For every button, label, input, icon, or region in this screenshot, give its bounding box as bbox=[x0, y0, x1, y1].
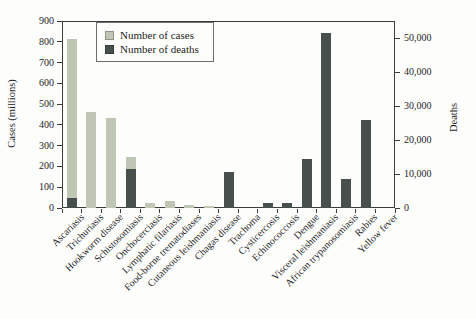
bar-cases-trichuriasis bbox=[86, 112, 96, 208]
bar-deaths-cysticercosis bbox=[263, 203, 273, 208]
x-axis-tick bbox=[218, 209, 219, 213]
bar-deaths-rabies bbox=[361, 120, 371, 208]
left-axis-tick-label: 0 bbox=[16, 203, 54, 213]
x-axis-tick bbox=[62, 209, 63, 213]
legend-item-cases: Number of cases bbox=[105, 29, 199, 41]
right-axis-tick-label: 10,000 bbox=[404, 169, 432, 179]
left-axis-tick bbox=[57, 83, 62, 84]
x-axis-tick bbox=[101, 209, 102, 213]
right-axis-tick-label: 30,000 bbox=[404, 101, 432, 111]
right-axis-tick bbox=[395, 208, 400, 209]
bar-deaths-african-trypanosomiasis bbox=[341, 179, 351, 208]
left-axis-tick bbox=[57, 187, 62, 188]
x-axis-tick bbox=[81, 209, 82, 213]
x-axis-tick bbox=[316, 209, 317, 213]
x-axis-tick bbox=[277, 209, 278, 213]
left-axis-tick-label: 400 bbox=[16, 120, 54, 130]
bar-deaths-ascariasis bbox=[67, 198, 77, 208]
bar-deaths-echinococcosis bbox=[282, 203, 292, 208]
left-axis-tick bbox=[57, 41, 62, 42]
x-axis-tick bbox=[257, 209, 258, 213]
left-axis-tick bbox=[57, 21, 62, 22]
bar-cases-onchocerciasis bbox=[145, 203, 155, 208]
x-axis-tick bbox=[179, 209, 180, 213]
bar-chart-ntd-cases-deaths: 0100200300400500600700800900010,00020,00… bbox=[0, 0, 476, 319]
right-axis-tick bbox=[395, 38, 400, 39]
right-axis-tick-label: 40,000 bbox=[404, 67, 432, 77]
x-axis-tick bbox=[336, 209, 337, 213]
x-axis-tick bbox=[238, 209, 239, 213]
right-axis-tick bbox=[395, 106, 400, 107]
x-axis-tick bbox=[140, 209, 141, 213]
right-axis-tick-label: 50,000 bbox=[404, 33, 432, 43]
legend-swatch-deaths bbox=[105, 45, 114, 54]
left-axis-tick bbox=[57, 124, 62, 125]
left-axis-tick bbox=[57, 166, 62, 167]
bar-cases-ascariasis bbox=[67, 39, 77, 208]
legend-label-cases: Number of cases bbox=[120, 29, 194, 41]
right-axis-title: Deaths bbox=[448, 88, 459, 148]
right-axis-tick-label: 20,000 bbox=[404, 135, 432, 145]
left-axis-tick bbox=[57, 104, 62, 105]
bar-cases-hookworm-disease bbox=[106, 118, 116, 208]
legend-label-deaths: Number of deaths bbox=[120, 43, 199, 55]
legend-item-deaths: Number of deaths bbox=[105, 43, 199, 55]
x-axis-tick bbox=[395, 209, 396, 213]
x-axis-tick bbox=[355, 209, 356, 213]
left-axis-tick-label: 600 bbox=[16, 78, 54, 88]
left-axis-tick bbox=[57, 62, 62, 63]
bar-deaths-chagas-disease bbox=[224, 172, 234, 208]
left-axis-tick-label: 700 bbox=[16, 58, 54, 68]
right-axis-tick-label: 0 bbox=[404, 203, 409, 213]
left-axis-tick-label: 800 bbox=[16, 37, 54, 47]
right-axis-tick bbox=[395, 174, 400, 175]
left-axis-tick-label: 200 bbox=[16, 161, 54, 171]
right-axis-tick bbox=[395, 140, 400, 141]
left-axis-tick-label: 100 bbox=[16, 182, 54, 192]
bar-deaths-schistosomiasis bbox=[126, 169, 136, 208]
bar-cases-lymphatic-filariasis bbox=[165, 201, 175, 208]
bar-deaths-visceral-leishmaniasis bbox=[321, 33, 331, 208]
left-axis-tick-label: 900 bbox=[16, 16, 54, 26]
x-axis-tick bbox=[199, 209, 200, 213]
legend-swatch-cases bbox=[105, 31, 114, 40]
left-axis-tick-label: 500 bbox=[16, 99, 54, 109]
legend-box: Number of cases Number of deaths bbox=[96, 22, 214, 62]
right-axis-tick bbox=[395, 72, 400, 73]
left-axis-tick-label: 300 bbox=[16, 141, 54, 151]
x-axis-tick bbox=[159, 209, 160, 213]
bar-cases-cutaneous-leishmaniasis bbox=[204, 206, 214, 208]
left-axis-tick bbox=[57, 145, 62, 146]
x-axis-tick bbox=[120, 209, 121, 213]
left-axis-title: Cases (millions) bbox=[6, 27, 17, 201]
x-axis-tick bbox=[297, 209, 298, 213]
bar-deaths-dengue bbox=[302, 159, 312, 208]
x-axis-tick bbox=[375, 209, 376, 213]
bar-cases-food-borne-trematodiases bbox=[184, 205, 194, 208]
